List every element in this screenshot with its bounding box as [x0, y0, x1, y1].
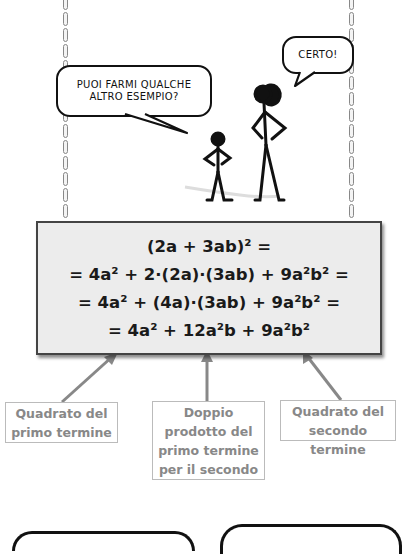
- label-double-line4: per il secondo: [153, 460, 264, 479]
- label-double-line1: Doppio: [153, 403, 264, 422]
- label-double-line2: prodotto del: [153, 422, 264, 441]
- formula-line-2: = 4a² + 2·(2a)·(3ab) + 9a²b² =: [38, 261, 380, 289]
- bubble-tail-question: [125, 114, 187, 133]
- bubble-tail-answer: [295, 72, 315, 86]
- formula-line-3: = 4a² + (4a)·(3ab) + 9a²b² =: [38, 289, 380, 317]
- formula-line-1: (2a + 3ab)² =: [38, 233, 380, 261]
- formula-sign: (2a + 3ab)² = = 4a² + 2·(2a)·(3ab) + 9a²…: [36, 221, 382, 355]
- label-first-term-square: Quadrato del primo termine: [5, 402, 118, 443]
- label-second-line1: Quadrato del: [281, 402, 395, 421]
- formula-line-4: = 4a² + 12a²b + 9a²b²: [38, 317, 380, 345]
- label-double-product: Doppio prodotto del primo termine per il…: [152, 401, 265, 480]
- bottom-bubble-right: [220, 524, 402, 554]
- label-first-line2: primo termine: [6, 423, 117, 442]
- label-double-line3: primo termine: [153, 441, 264, 460]
- tall-stick-figure: [253, 85, 285, 200]
- label-second-term-square: Quadrato del secondo termine: [280, 400, 396, 441]
- label-first-line1: Quadrato del: [6, 404, 117, 423]
- pointer-arrows: [62, 350, 341, 402]
- label-second-line2: secondo termine: [281, 421, 395, 459]
- bottom-bubble-left: [12, 531, 195, 551]
